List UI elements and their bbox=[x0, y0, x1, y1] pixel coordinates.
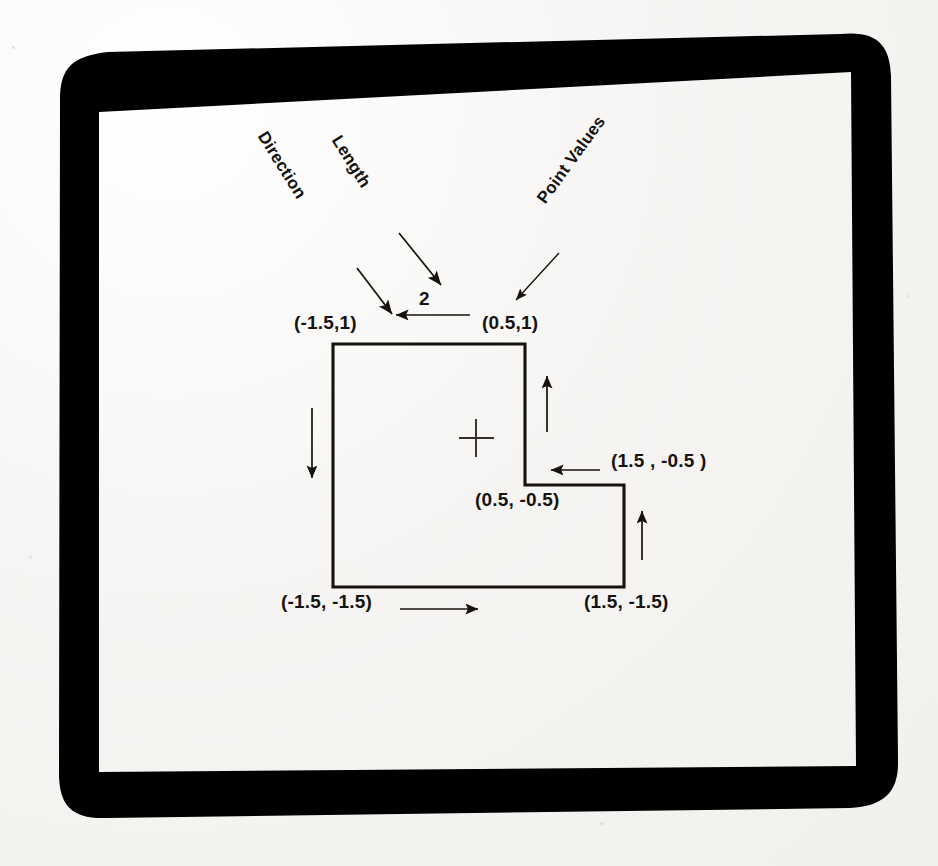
vertex-label-bottom-left: (-1.5, -1.5) bbox=[281, 591, 372, 613]
centroid-crosshair-marker bbox=[459, 419, 494, 457]
polygon-outline bbox=[333, 344, 624, 587]
figure-page: Direction Length Point Values 2 (-1.5,1)… bbox=[0, 0, 938, 866]
vertex-label-bottom-right: (1.5, -1.5) bbox=[584, 591, 669, 613]
vertex-label-mid-left: (0.5, -0.5) bbox=[475, 489, 560, 511]
edge-length-value-top: 2 bbox=[419, 288, 430, 310]
leader-line-point-values bbox=[516, 253, 559, 300]
vertex-label-top-right: (0.5,1) bbox=[482, 312, 538, 334]
diagram-canvas bbox=[0, 0, 938, 866]
vertex-label-mid-right: (1.5 , -0.5 ) bbox=[611, 450, 707, 472]
leader-line-direction bbox=[357, 268, 392, 314]
vertex-label-top-left: (-1.5,1) bbox=[294, 312, 357, 334]
leader-line-length bbox=[399, 233, 441, 285]
